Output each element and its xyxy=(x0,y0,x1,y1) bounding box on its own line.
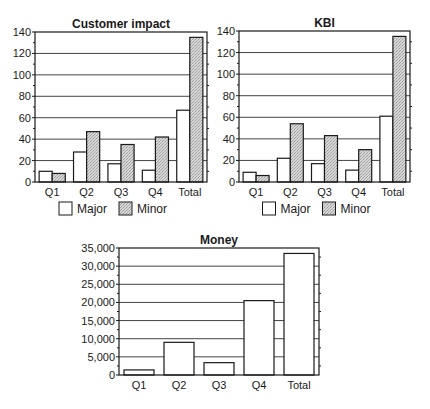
bar-minor-q2 xyxy=(290,124,303,182)
legend-swatch-minor xyxy=(323,202,336,215)
bar-major-q3 xyxy=(108,164,121,182)
legend-swatch-major xyxy=(263,202,276,215)
y-tick-label: 0 xyxy=(25,176,31,188)
y-tick-label: 15,000 xyxy=(81,315,115,327)
bar-major-q2 xyxy=(277,158,290,182)
x-category-label: Total xyxy=(381,186,404,198)
legend-label-minor: Minor xyxy=(341,202,371,216)
x-category-label: Total xyxy=(178,186,201,198)
bar-major-q1 xyxy=(243,172,256,182)
chart-kbi: KBI020406080100120140Q1Q2Q3Q4TotalMajorM… xyxy=(217,16,412,216)
y-tick-label: 20,000 xyxy=(81,296,115,308)
legend-label-major: Major xyxy=(281,202,311,216)
bar-money-q3 xyxy=(204,363,234,375)
x-category-label: Q2 xyxy=(79,186,94,198)
bar-major-q3 xyxy=(312,164,325,182)
chart-customer-impact: Customer impact020406080100120140Q1Q2Q3Q… xyxy=(13,17,209,216)
y-tick-label: 10,000 xyxy=(81,333,115,345)
y-tick-label: 80 xyxy=(223,90,235,102)
y-tick-label: 20 xyxy=(223,154,235,166)
bar-money-q2 xyxy=(164,342,194,375)
legend-swatch-minor xyxy=(119,202,132,215)
x-category-label: Q3 xyxy=(317,186,332,198)
y-tick-label: 120 xyxy=(217,47,235,59)
bar-major-total xyxy=(177,110,190,182)
y-tick-label: 0 xyxy=(229,176,235,188)
x-category-label: Q4 xyxy=(148,186,163,198)
legend-swatch-major xyxy=(59,202,72,215)
bar-major-q4 xyxy=(142,170,155,182)
y-tick-label: 25,000 xyxy=(81,278,115,290)
bar-major-q1 xyxy=(39,171,52,182)
x-category-label: Q1 xyxy=(249,186,264,198)
y-tick-label: 140 xyxy=(13,26,31,38)
bar-minor-q3 xyxy=(325,136,338,182)
y-tick-label: 20 xyxy=(19,155,31,167)
bar-minor-q2 xyxy=(87,132,100,182)
y-tick-label: 100 xyxy=(217,68,235,80)
bar-major-total xyxy=(380,116,393,182)
charts-canvas: Customer impact020406080100120140Q1Q2Q3Q… xyxy=(0,0,430,409)
y-tick-label: 60 xyxy=(19,112,31,124)
x-category-label: Q1 xyxy=(45,186,60,198)
chart-title: Customer impact xyxy=(72,17,170,31)
chart-title: KBI xyxy=(314,16,335,30)
x-category-label: Q3 xyxy=(114,186,129,198)
bar-minor-total xyxy=(393,36,406,182)
x-category-label: Q4 xyxy=(252,379,267,391)
x-category-label: Q2 xyxy=(283,186,298,198)
y-tick-label: 30,000 xyxy=(81,260,115,272)
y-tick-label: 60 xyxy=(223,111,235,123)
y-tick-label: 40 xyxy=(19,133,31,145)
bar-minor-q1 xyxy=(52,173,65,182)
bar-major-q2 xyxy=(74,152,87,182)
x-category-label: Total xyxy=(287,379,310,391)
bar-money-total xyxy=(284,253,314,375)
y-tick-label: 35,000 xyxy=(81,242,115,254)
y-tick-label: 5,000 xyxy=(87,351,115,363)
legend-label-minor: Minor xyxy=(137,202,167,216)
y-tick-label: 100 xyxy=(13,69,31,81)
y-tick-label: 80 xyxy=(19,90,31,102)
bar-money-q4 xyxy=(244,301,274,375)
chart-title: Money xyxy=(200,233,238,247)
x-category-label: Q3 xyxy=(212,379,227,391)
x-category-label: Q4 xyxy=(351,186,366,198)
bar-minor-total xyxy=(190,37,203,182)
chart-money: Money05,00010,00015,00020,00025,00030,00… xyxy=(81,233,321,391)
y-tick-label: 40 xyxy=(223,133,235,145)
y-tick-label: 0 xyxy=(109,369,115,381)
bar-minor-q1 xyxy=(256,176,269,182)
y-tick-label: 120 xyxy=(13,47,31,59)
bar-major-q4 xyxy=(346,170,359,182)
bar-minor-q3 xyxy=(121,145,134,183)
x-category-label: Q1 xyxy=(132,379,147,391)
x-category-label: Q2 xyxy=(172,379,187,391)
legend-label-major: Major xyxy=(77,202,107,216)
bar-money-q1 xyxy=(124,370,154,375)
bar-minor-q4 xyxy=(359,150,372,182)
y-tick-label: 140 xyxy=(217,25,235,37)
bar-minor-q4 xyxy=(155,137,168,182)
